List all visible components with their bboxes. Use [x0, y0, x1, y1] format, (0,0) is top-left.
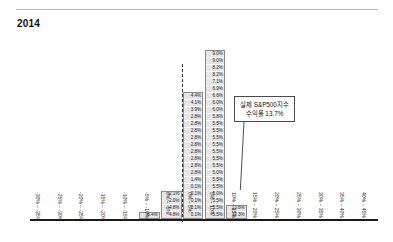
x-axis-tick-label: 10% ~ 15% — [228, 192, 240, 238]
bar-cell-value: 6.0% — [206, 107, 225, 114]
bar-cell-value: 5.8% — [206, 114, 225, 121]
bar-cell-value: 9.0% — [206, 51, 225, 58]
x-axis-tick-label: 30% ~ 35% — [315, 192, 327, 238]
plot-area: -6.4%-2.1%-2.0%-4.8%-4.8%4.4%4.1%3.9%2.8… — [16, 30, 378, 190]
bar-cell-value: 8.2% — [206, 72, 225, 79]
x-axis-tick-label: -10% ~ -15% — [119, 192, 131, 238]
x-axis-tick-label: -30% ~ -35% — [32, 192, 44, 238]
header-divider — [16, 9, 378, 10]
bar-cell-value: 6.6% — [206, 93, 225, 100]
x-axis-tick-label: 25% ~ 30% — [293, 192, 305, 238]
chart-page: 2014 -6.4%-2.1%-2.0%-4.8%-4.8%4.4%4.1%3.… — [0, 0, 393, 242]
bar-cell-value: 8.2% — [206, 65, 225, 72]
x-axis-tick-label: 40% ~ 45% — [358, 192, 370, 238]
x-axis-tick-label: 20% ~ 25% — [271, 192, 283, 238]
actual-return-callout: 실제 S&P500지수 수익률 13.7% — [234, 96, 295, 122]
bar-cell-value: 6.0% — [206, 100, 225, 107]
bar-cell-value: 6.9% — [206, 86, 225, 93]
x-axis-tick-label: 0% ~ -5% — [162, 192, 174, 238]
x-axis-tick-label: -15% ~ -20% — [97, 192, 109, 238]
bar-cell-value: 5.5% — [206, 163, 225, 170]
x-axis-labels: -30% ~ -35%-25% ~ -30%-20% ~ -25%-15% ~ … — [16, 192, 378, 240]
bar-cell-value: 5.5% — [206, 121, 225, 128]
x-axis-tick-label: 0% ~ 5% — [184, 192, 196, 238]
x-axis-tick-label: -25% ~ -30% — [54, 192, 66, 238]
x-axis-tick-label: -5% ~ -10% — [141, 192, 153, 238]
callout-line-2: 수익률 13.7% — [240, 109, 289, 118]
bar-cell-value: 5.5% — [206, 142, 225, 149]
callout-line-1: 실제 S&P500지수 — [240, 100, 289, 109]
page-title: 2014 — [17, 18, 40, 29]
bar-cell-value: 5.5% — [206, 156, 225, 163]
bar-cell-value: 5.5% — [206, 149, 225, 156]
bar-cell-value: 9.0% — [206, 58, 225, 65]
bar-cell-value: 5.5% — [206, 128, 225, 135]
x-axis-tick-label: -20% ~ -25% — [75, 192, 87, 238]
x-axis-tick-label: 15% ~ 20% — [249, 192, 261, 238]
bar-cell-value: 5.5% — [206, 135, 225, 142]
x-axis-tick-label: 5% ~ 10% — [206, 192, 218, 238]
x-axis-tick-label: 35% ~ 40% — [336, 192, 348, 238]
bar-cell-value: 7.1% — [206, 79, 225, 86]
